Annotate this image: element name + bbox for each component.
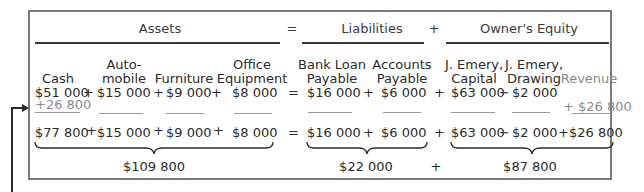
assets-brace xyxy=(34,141,274,155)
owners-equity-heading: Owner's Equity xyxy=(480,22,578,36)
assets-heading: Assets xyxy=(139,22,181,36)
owners-equity-total: $87 800 xyxy=(503,160,557,174)
op-before-3: + xyxy=(211,86,222,100)
revenue-underline xyxy=(572,113,612,114)
col-furniture-label: Furniture xyxy=(155,72,213,86)
col-drawing-label-2: Drawing xyxy=(507,72,561,86)
op-after-3: + xyxy=(213,124,224,138)
bank-loan-after: $16 000 xyxy=(307,126,361,140)
totals-plus: + xyxy=(431,160,442,174)
op-after-7: − xyxy=(499,126,510,140)
arrow-right-icon xyxy=(22,104,29,112)
accounts-payable-after: $6 000 xyxy=(381,126,427,140)
cash-after: $77 800 xyxy=(35,126,89,140)
col-automobile-label-2: mobile xyxy=(102,72,146,86)
capital-before: $63 000 xyxy=(451,86,505,100)
arrow-line-vertical xyxy=(11,107,13,192)
furniture-underline xyxy=(166,113,204,114)
drawing-before: $2 000 xyxy=(512,86,558,100)
col-drawing-label-1: J. Emery, xyxy=(505,58,563,72)
revenue-change: + $26 800 xyxy=(563,100,632,114)
op-before-5: + xyxy=(363,86,374,100)
cash-underline xyxy=(35,112,80,113)
col-revenue-label: Revenue xyxy=(561,72,618,86)
automobile-underline xyxy=(99,113,143,114)
col-cash-label: Cash xyxy=(42,72,74,86)
col-automobile-label-1: Auto- xyxy=(106,58,141,72)
op-before-6: + xyxy=(434,86,445,100)
liabilities-total: $22 000 xyxy=(339,160,393,174)
plus-sign: + xyxy=(429,22,440,36)
automobile-before: $15 000 xyxy=(97,86,151,100)
col-capital-label-1: J. Emery, xyxy=(445,58,503,72)
capital-after: $63 000 xyxy=(451,126,505,140)
accounts-payable-before: $6 000 xyxy=(381,86,427,100)
liabilities-heading: Liabilities xyxy=(341,22,402,36)
assets-total: $109 800 xyxy=(123,160,185,174)
op-before-2: + xyxy=(153,86,164,100)
office-equipment-before: $8 000 xyxy=(232,86,278,100)
equity-rule xyxy=(446,42,609,44)
office-equipment-underline xyxy=(234,113,272,114)
col-accounts-payable-label-1: Accounts xyxy=(372,58,431,72)
col-bank-loan-label-1: Bank Loan xyxy=(298,58,366,72)
col-bank-loan-label-2: Payable xyxy=(307,72,358,86)
op-after-8: + xyxy=(558,126,569,140)
liabilities-rule xyxy=(302,42,424,44)
op-before-4: = xyxy=(288,86,299,100)
bank-loan-before: $16 000 xyxy=(307,86,361,100)
op-after-5: + xyxy=(363,126,374,140)
furniture-after: $9 000 xyxy=(166,126,212,140)
accounts-payable-underline xyxy=(383,112,421,113)
equity-brace xyxy=(450,141,614,155)
equals-sign: = xyxy=(287,22,298,36)
op-after-4: = xyxy=(288,126,299,140)
col-capital-label-2: Capital xyxy=(451,72,497,86)
drawing-after: $2 000 xyxy=(512,126,558,140)
automobile-after: $15 000 xyxy=(97,126,151,140)
drawing-underline xyxy=(512,112,550,113)
col-accounts-payable-label-2: Payable xyxy=(377,72,428,86)
op-after-1: + xyxy=(86,124,97,138)
col-office-equipment-label-2: Equipment xyxy=(217,72,288,86)
cash-change: +26 800 xyxy=(35,98,91,112)
col-office-equipment-label-1: Office xyxy=(233,58,271,72)
capital-underline xyxy=(451,112,495,113)
assets-rule xyxy=(35,42,280,44)
bank-loan-underline xyxy=(308,112,352,113)
liabilities-brace xyxy=(306,141,428,155)
op-after-2: + xyxy=(153,124,164,138)
office-equipment-after: $8 000 xyxy=(232,126,278,140)
op-before-7: − xyxy=(499,86,510,100)
revenue-after: $26 800 xyxy=(569,126,623,140)
furniture-before: $9 000 xyxy=(166,86,212,100)
op-after-6: + xyxy=(434,126,445,140)
